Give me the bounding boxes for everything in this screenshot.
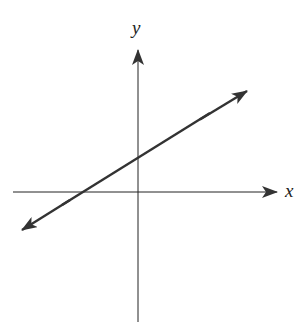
line-arrow-upper xyxy=(200,91,247,120)
plotted-line xyxy=(62,113,210,205)
line-arrow-lower xyxy=(22,200,70,230)
y-axis-label: y xyxy=(130,17,141,38)
coordinate-plane: y x xyxy=(0,0,307,323)
diagram-canvas: y x xyxy=(0,0,307,323)
x-axis-label: x xyxy=(284,180,294,201)
